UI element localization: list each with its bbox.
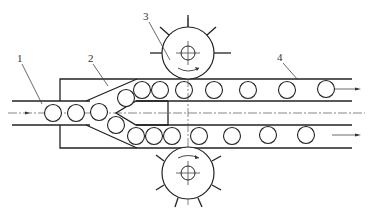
balls-lower bbox=[128, 127, 315, 145]
lower-arrowhead-icon bbox=[355, 134, 361, 137]
bottom-star-wheel bbox=[156, 147, 221, 207]
label-3: 3 bbox=[143, 10, 149, 22]
leader-1 bbox=[22, 64, 42, 104]
label-2: 2 bbox=[88, 52, 94, 64]
balls-upper bbox=[134, 81, 335, 99]
label-4: 4 bbox=[277, 51, 283, 63]
leader-4 bbox=[283, 63, 298, 80]
label-1: 1 bbox=[17, 52, 23, 64]
top-star-wheel bbox=[150, 15, 231, 79]
input-arrow-icon bbox=[25, 112, 30, 115]
upper-arrowhead-icon bbox=[355, 88, 361, 91]
leader-2 bbox=[93, 64, 108, 86]
balls-splitting bbox=[108, 90, 135, 134]
balls-input bbox=[45, 104, 108, 122]
splitter-diagram: 1 2 3 4 bbox=[0, 0, 376, 214]
